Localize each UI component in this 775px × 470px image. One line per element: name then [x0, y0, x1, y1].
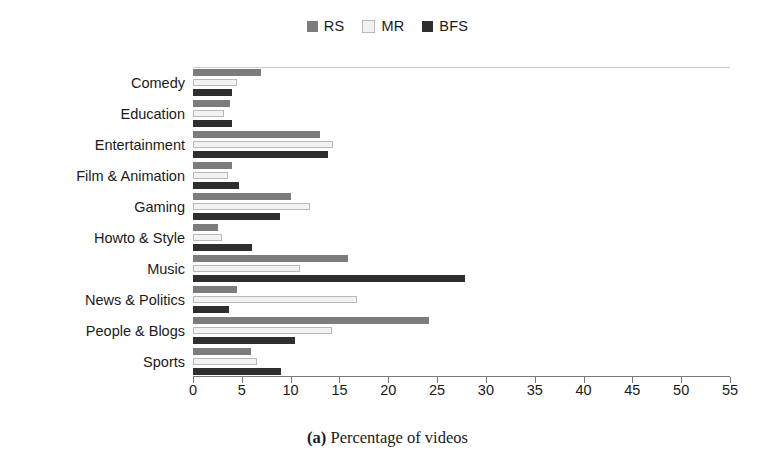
legend-entry-bfs: BFS [422, 18, 468, 34]
bar-bfs [193, 213, 280, 220]
bar-bfs [193, 151, 328, 158]
x-tick-label-45: 45 [624, 382, 640, 398]
bar-rs [193, 224, 218, 231]
bar-rs [193, 286, 237, 293]
legend-swatch-mr-icon [362, 20, 375, 33]
legend-swatch-bfs-icon [422, 21, 433, 32]
bar-rs [193, 255, 348, 262]
bar-mr [193, 327, 332, 334]
bar-group [193, 346, 730, 377]
bar-bfs [193, 306, 229, 313]
bar-rs [193, 193, 291, 200]
bar-group [193, 191, 730, 222]
x-tick-mark [437, 377, 438, 383]
bar-group [193, 253, 730, 284]
x-tick-mark [291, 377, 292, 383]
legend-entry-mr: MR [362, 18, 404, 34]
x-tick-mark [339, 377, 340, 383]
legend-label-bfs: BFS [439, 18, 468, 34]
y-axis-label-sports: Sports [13, 354, 193, 370]
x-tick-label-20: 20 [380, 382, 396, 398]
y-axis-label-gaming: Gaming [13, 199, 193, 215]
figure-percentage-of-videos: RSMRBFS ComedyEducationEntertainmentFilm… [0, 0, 775, 470]
y-axis-category-labels: ComedyEducationEntertainmentFilm & Anima… [0, 67, 193, 377]
legend-label-mr: MR [381, 18, 404, 34]
bar-rs [193, 131, 320, 138]
bar-mr [193, 110, 224, 117]
x-tick-label-35: 35 [527, 382, 543, 398]
caption-text: Percentage of videos [326, 428, 468, 447]
x-tick-mark [388, 377, 389, 383]
bar-bfs [193, 89, 232, 96]
chart-legend: RSMRBFS [0, 18, 775, 34]
x-tick-mark [193, 377, 194, 383]
y-axis-label-film-animation: Film & Animation [13, 168, 193, 184]
bar-group [193, 67, 730, 98]
bar-bfs [193, 244, 252, 251]
bar-group [193, 284, 730, 315]
y-axis-label-people-blogs: People & Blogs [13, 323, 193, 339]
x-tick-mark [730, 377, 731, 383]
x-axis-line [193, 376, 730, 377]
x-tick-label-10: 10 [283, 382, 299, 398]
x-tick-mark [242, 377, 243, 383]
bar-group [193, 160, 730, 191]
plot-area [193, 67, 730, 377]
bar-group [193, 98, 730, 129]
bar-rs [193, 317, 429, 324]
y-axis-label-comedy: Comedy [13, 75, 193, 91]
caption-label: (a) [307, 428, 326, 447]
x-tick-label-0: 0 [189, 382, 197, 398]
legend-swatch-rs-icon [307, 21, 318, 32]
x-tick-label-15: 15 [331, 382, 347, 398]
y-axis-label-entertainment: Entertainment [13, 137, 193, 153]
y-axis-label-howto-style: Howto & Style [13, 230, 193, 246]
x-tick-mark [681, 377, 682, 383]
bar-group [193, 315, 730, 346]
bar-mr [193, 172, 228, 179]
bar-bfs [193, 368, 281, 375]
bar-mr [193, 79, 237, 86]
x-tick-label-40: 40 [575, 382, 591, 398]
bar-rs [193, 69, 261, 76]
bar-bfs [193, 182, 239, 189]
x-tick-mark [632, 377, 633, 383]
x-tick-mark [486, 377, 487, 383]
bar-bfs [193, 275, 465, 282]
x-tick-mark [535, 377, 536, 383]
bar-mr [193, 296, 357, 303]
y-axis-label-news-politics: News & Politics [13, 292, 193, 308]
bar-mr [193, 234, 222, 241]
bar-rs [193, 162, 232, 169]
bar-mr [193, 358, 257, 365]
bar-rs [193, 348, 251, 355]
x-tick-mark [584, 377, 585, 383]
bar-group [193, 129, 730, 160]
bar-group [193, 222, 730, 253]
x-tick-label-25: 25 [429, 382, 445, 398]
x-tick-label-55: 55 [722, 382, 738, 398]
bar-mr [193, 203, 310, 210]
x-tick-label-30: 30 [478, 382, 494, 398]
bar-mr [193, 141, 333, 148]
legend-entry-rs: RS [307, 18, 345, 34]
x-tick-label-50: 50 [673, 382, 689, 398]
figure-caption: (a) Percentage of videos [0, 428, 775, 448]
y-axis-label-education: Education [13, 106, 193, 122]
bar-bfs [193, 120, 232, 127]
x-tick-label-5: 5 [238, 382, 246, 398]
bar-bfs [193, 337, 295, 344]
bar-rs [193, 100, 230, 107]
y-axis-label-music: Music [13, 261, 193, 277]
bar-mr [193, 265, 300, 272]
legend-label-rs: RS [324, 18, 345, 34]
